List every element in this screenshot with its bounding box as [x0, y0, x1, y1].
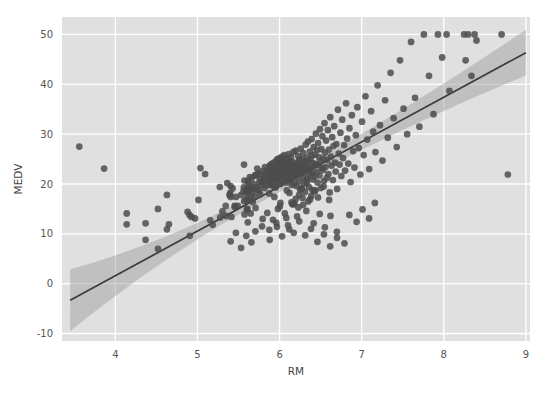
y-tick-label: 20 [40, 179, 53, 190]
x-tick-label: 9 [523, 349, 529, 360]
y-axis-title: MEDV [12, 163, 24, 195]
y-tick-label: 0 [47, 278, 53, 289]
y-tick-label: -10 [37, 328, 53, 339]
y-tick-label: 50 [40, 29, 53, 40]
x-axis-title: RM [288, 365, 304, 377]
scatter-plot-svg: 456789 -1001020304050 RM MEDV [0, 0, 560, 396]
x-tick-label: 7 [358, 349, 364, 360]
x-tick-label: 6 [276, 349, 282, 360]
y-tick-label: 10 [40, 228, 53, 239]
x-tick-label: 4 [112, 349, 118, 360]
y-tick-label: 40 [40, 79, 53, 90]
x-tick-label: 5 [194, 349, 200, 360]
x-tick-label: 8 [441, 349, 447, 360]
chart-figure: 456789 -1001020304050 RM MEDV [0, 0, 560, 396]
y-tick-label: 30 [40, 129, 53, 140]
